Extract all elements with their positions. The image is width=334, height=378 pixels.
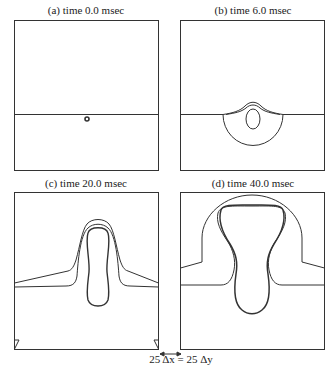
panel-a-bubble — [85, 117, 89, 121]
panel-c — [15, 193, 159, 350]
panel-d-frame — [181, 193, 325, 350]
panel-b-bump-outer — [223, 102, 283, 114]
panel-c-bubble — [87, 228, 109, 306]
scale-caption: 25 Δx = 25 Δy — [126, 353, 236, 365]
panel-c-corner-right — [154, 340, 159, 349]
figure-canvas — [0, 0, 334, 378]
panel-a — [15, 21, 159, 171]
panel-b-bubble — [246, 109, 260, 129]
panel-c-interface — [15, 224, 159, 287]
panel-a-frame — [15, 21, 159, 171]
panel-b-shock-front — [181, 115, 325, 146]
panel-d-bubble — [220, 205, 284, 314]
panel-d — [181, 193, 325, 350]
panel-b — [181, 21, 325, 171]
panel-b-bump-inner — [226, 105, 280, 115]
panel-b-frame — [181, 21, 325, 171]
panel-c-frame — [15, 193, 159, 350]
panel-c-corner-left — [15, 340, 20, 349]
